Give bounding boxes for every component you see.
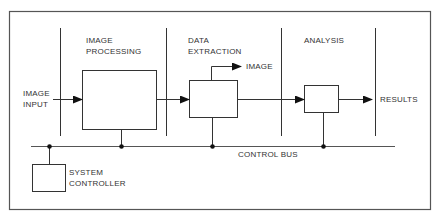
- controller-line-2: CONTROLLER: [69, 178, 126, 189]
- image-input-label: IMAGE INPUT: [23, 88, 50, 110]
- junction-dot: [47, 144, 52, 149]
- input-line-1: IMAGE: [23, 88, 50, 99]
- title-line-2: EXTRACTION: [188, 46, 242, 57]
- input-line-2: INPUT: [23, 99, 50, 110]
- title-line-1: DATA: [188, 35, 242, 46]
- block-diagram-canvas: [0, 0, 437, 220]
- image-processing-title: IMAGE PROCESSING: [86, 35, 141, 57]
- image-output-arrow: [212, 67, 242, 81]
- system-controller-block: [33, 165, 66, 192]
- junction-dot: [210, 144, 215, 149]
- junction-dot: [321, 144, 326, 149]
- analysis-block: [305, 86, 339, 113]
- title-line-2: PROCESSING: [86, 46, 141, 57]
- analysis-title: ANALYSIS: [304, 35, 344, 46]
- junction-dot: [119, 144, 124, 149]
- image-output-label: IMAGE: [246, 61, 273, 72]
- controller-line-1: SYSTEM: [69, 167, 126, 178]
- data-extraction-title: DATA EXTRACTION: [188, 35, 242, 57]
- title-line-1: IMAGE: [86, 35, 141, 46]
- system-controller-label: SYSTEM CONTROLLER: [69, 167, 126, 189]
- results-label: RESULTS: [380, 94, 418, 105]
- title-line-1: ANALYSIS: [304, 35, 344, 46]
- image-processing-block: [83, 71, 157, 130]
- control-bus-label: CONTROL BUS: [238, 149, 298, 160]
- data-extraction-block: [190, 81, 238, 118]
